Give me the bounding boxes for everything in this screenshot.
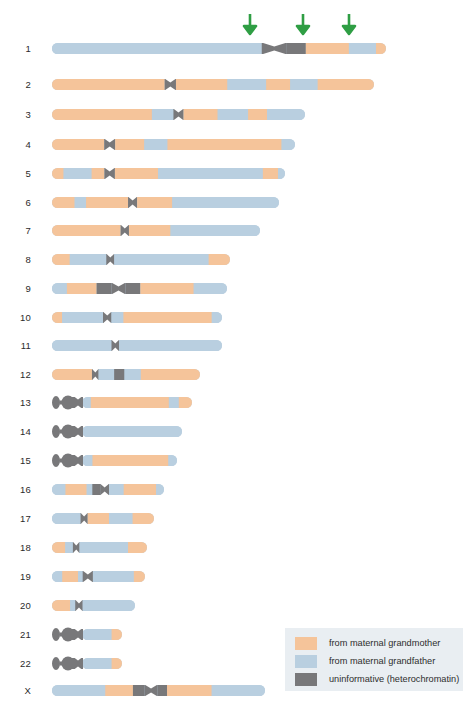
karyogram-figure: 12345678910111213141516171819202122X [0, 0, 467, 717]
chromosome-graphic-19 [0, 567, 467, 586]
chromosome-row-9: 9 [0, 283, 467, 294]
chromosome-row-15: 15 [0, 455, 467, 466]
chromosome-row-20: 20 [0, 600, 467, 611]
chromosome-row-17: 17 [0, 513, 467, 524]
chromosome-row-13: 13 [0, 397, 467, 408]
chromosome-graphic-10 [0, 308, 467, 327]
chromosome-graphic-3 [0, 105, 467, 124]
chromosome-row-14: 14 [0, 426, 467, 437]
crossover-arrow-3 [341, 14, 357, 40]
chromosome-graphic-7 [0, 221, 467, 240]
legend-item-1: from maternal grandmother [295, 637, 440, 650]
chromosome-row-18: 18 [0, 542, 467, 553]
chromosome-row-12: 12 [0, 369, 467, 380]
chromosome-graphic-6 [0, 193, 467, 212]
chromosome-graphic-5 [0, 164, 467, 183]
chromosome-graphic-12 [0, 365, 467, 384]
chromosome-graphic-11 [0, 336, 467, 355]
chromosome-row-4: 4 [0, 139, 467, 150]
chromosome-graphic-4 [0, 135, 467, 154]
chromosome-graphic-14 [0, 422, 467, 441]
legend-swatch-icon-2 [295, 655, 317, 668]
chromosome-row-8: 8 [0, 254, 467, 265]
legend-label-3: uninformative (heterochromatin) [329, 675, 459, 684]
chromosome-graphic-9 [0, 279, 467, 298]
legend-label-2: from maternal grandfather [329, 657, 435, 666]
chromosome-graphic-13 [0, 393, 467, 412]
chromosome-row-1: 1 [0, 43, 467, 54]
crossover-arrow-1 [242, 14, 258, 40]
chromosome-graphic-8 [0, 250, 467, 269]
chromosome-graphic-1 [0, 39, 467, 58]
chromosome-row-10: 10 [0, 312, 467, 323]
chromosome-graphic-18 [0, 538, 467, 557]
legend-item-3: uninformative (heterochromatin) [295, 673, 459, 686]
chromosome-row-2: 2 [0, 79, 467, 90]
legend-item-2: from maternal grandfather [295, 655, 435, 668]
chromosome-row-6: 6 [0, 197, 467, 208]
chromosome-graphic-17 [0, 509, 467, 528]
legend-swatch-icon-1 [295, 637, 317, 650]
chromosome-row-5: 5 [0, 168, 467, 179]
crossover-arrow-2 [295, 14, 311, 40]
chromosome-graphic-15 [0, 451, 467, 470]
legend-swatch-icon-3 [295, 673, 317, 686]
chromosome-row-19: 19 [0, 571, 467, 582]
legend-label-1: from maternal grandmother [329, 639, 440, 648]
chromosome-row-16: 16 [0, 484, 467, 495]
chromosome-graphic-2 [0, 75, 467, 94]
chromosome-row-11: 11 [0, 340, 467, 351]
chromosome-graphic-20 [0, 596, 467, 615]
chromosome-row-3: 3 [0, 109, 467, 120]
chromosome-graphic-16 [0, 480, 467, 499]
chromosome-row-7: 7 [0, 225, 467, 236]
